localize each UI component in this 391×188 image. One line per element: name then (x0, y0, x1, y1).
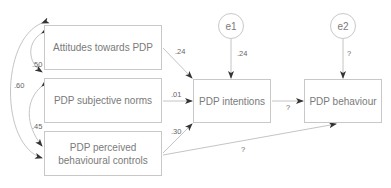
node-attitudes-label: Attitudes towards PDP (53, 41, 153, 54)
node-attitudes: Attitudes towards PDP (44, 25, 162, 70)
node-intentions-label: PDP intentions (199, 95, 265, 108)
node-norms-label: PDP subjective norms (54, 94, 152, 107)
error-node-e1: e1 (218, 13, 244, 39)
node-controls-label-1: PDP perceived (70, 141, 137, 154)
corr-norms-controls: .45 (32, 123, 42, 131)
corr-attitudes-controls: .60 (14, 82, 24, 90)
path-controls-behaviour (163, 124, 336, 155)
coef-attitudes-intentions: .24 (175, 48, 185, 56)
node-subjective-norms: PDP subjective norms (44, 78, 162, 123)
corr-attitudes-norms: .50 (32, 61, 42, 69)
coef-norms-intentions: .01 (171, 91, 181, 99)
coef-e2-behaviour: ? (347, 50, 351, 58)
coef-e1-intentions: .24 (237, 50, 247, 58)
e2-label: e2 (337, 21, 348, 32)
node-perceived-controls: PDP perceived behavioural controls (44, 131, 162, 176)
node-behaviour: PDP behaviour (304, 79, 382, 123)
node-behaviour-label: PDP behaviour (309, 95, 376, 108)
error-node-e2: e2 (330, 13, 356, 39)
node-controls-label-2: behavioural controls (58, 154, 148, 167)
coef-controls-behaviour: ? (241, 146, 245, 154)
e1-label: e1 (225, 21, 236, 32)
coef-controls-intentions: .30 (171, 128, 181, 136)
node-intentions: PDP intentions (193, 79, 271, 123)
coef-intentions-behaviour: ? (286, 104, 290, 112)
correlation-norms-controls (29, 86, 42, 146)
